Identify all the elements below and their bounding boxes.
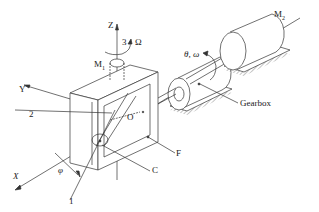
origin-label: O <box>127 113 134 122</box>
y-axis-label: Y <box>19 85 26 94</box>
gimbal-diagram <box>0 0 319 212</box>
x-axis-label: X <box>13 172 19 181</box>
axis-2-label: 2 <box>29 110 34 119</box>
z-axis-label: Z <box>108 21 114 30</box>
axis-1-label: 1 <box>69 197 74 206</box>
theta-omega-label: θ, ω <box>184 50 199 59</box>
m1-label: M1 <box>94 60 105 71</box>
frame-f-label: F <box>176 149 181 158</box>
frame-F <box>70 65 158 170</box>
phi-label: φ <box>58 166 63 175</box>
m2-label: M2 <box>274 10 285 21</box>
axis-3-label: 3 <box>122 38 127 47</box>
gearbox-label: Gearbox <box>240 99 271 108</box>
c-label: C <box>152 166 158 175</box>
omega-cap-label: Ω <box>135 38 142 47</box>
gearbox <box>168 57 232 115</box>
motor-M2 <box>220 14 290 76</box>
